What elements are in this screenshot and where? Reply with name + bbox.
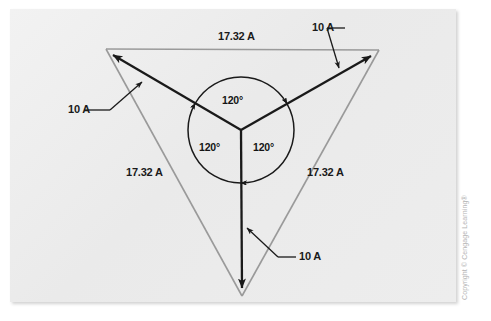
label-line-current-top: 17.32 A bbox=[218, 30, 255, 42]
label-line-current-right: 17.32 A bbox=[307, 166, 344, 178]
label-angle-top: 120° bbox=[222, 94, 243, 106]
line-current-top-edge bbox=[106, 49, 379, 50]
label-phase-current-bottom: 10 A bbox=[299, 250, 321, 262]
phase-vector-down bbox=[241, 130, 242, 288]
phasor-diagram bbox=[0, 0, 491, 321]
label-angle-right: 120° bbox=[253, 141, 274, 153]
phase-vector-upper-right bbox=[241, 56, 371, 130]
label-phase-current-left: 10 A bbox=[68, 103, 90, 115]
leader-bottom-phase-arrow bbox=[247, 228, 278, 257]
figure-root: 17.32 A 10 A 10 A 17.32 A 17.32 A 10 A 1… bbox=[0, 0, 491, 321]
label-angle-left: 120° bbox=[199, 141, 220, 153]
caption-strip bbox=[0, 305, 491, 321]
copyright-notice: Copyright © Cengage Learning® bbox=[461, 288, 491, 300]
leader-top-right-phase-arrow bbox=[327, 28, 339, 68]
phase-vector-upper-left bbox=[113, 55, 241, 130]
label-phase-current-top-right: 10 A bbox=[312, 21, 334, 33]
label-line-current-left: 17.32 A bbox=[126, 166, 163, 178]
